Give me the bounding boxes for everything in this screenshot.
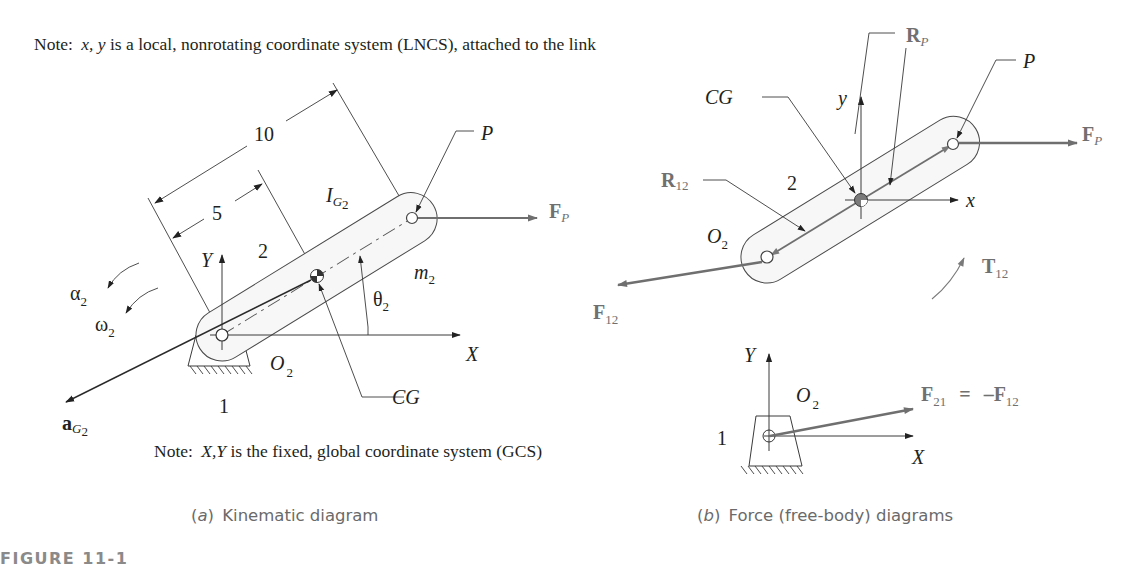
figure-11-1: Note: x, y is a local, nonrotating coord… — [0, 0, 1141, 575]
axis-x-label-a: X — [465, 343, 479, 365]
figure-number: FIGURE 11-1 — [0, 549, 128, 568]
axis-x-label-b: X — [911, 446, 925, 468]
axis-y-label-b: Y — [744, 344, 757, 366]
dimension-10-label: 10 — [254, 123, 274, 145]
leader-cg-b — [762, 97, 855, 193]
force-fp-label-b: FP — [1082, 123, 1102, 148]
mass-label: m2 — [414, 261, 435, 287]
ground-number-a: 1 — [219, 395, 229, 417]
dimension-line-10-b — [286, 90, 337, 121]
pivot-label-ground: O2 — [796, 384, 819, 412]
torque-label: T12 — [982, 255, 1008, 281]
alpha-label: α2 — [70, 282, 87, 309]
omega-arc — [126, 288, 158, 313]
link-number-b: 2 — [787, 172, 797, 194]
kinematic-diagram: 10 5 X Y — [62, 83, 569, 439]
cg-label-a: CG — [392, 386, 420, 408]
dimension-line-10-a — [155, 146, 247, 203]
local-x-label: x — [965, 189, 975, 211]
torque-arc — [932, 258, 964, 299]
dimension-line-5-b — [235, 184, 262, 201]
free-body-diagram: x y FP F12 T12 RP — [593, 24, 1102, 474]
rp-label: RP — [906, 24, 928, 49]
pivot-label-b: O2 — [707, 225, 728, 252]
alpha-arc — [108, 263, 139, 288]
point-p-label-a: P — [480, 122, 493, 144]
pivot-o2-b — [761, 251, 773, 263]
ground-number-b: 1 — [717, 427, 727, 449]
cg-symbol-a — [311, 270, 324, 283]
force-fp-label-a: FP — [549, 200, 569, 225]
force-f12 — [618, 262, 762, 285]
f21-equation: F21 = –F12 — [921, 383, 1019, 410]
r12-label: R12 — [661, 169, 688, 193]
acceleration-label: aG2 — [62, 412, 88, 439]
theta-label: θ2 — [373, 288, 389, 314]
axis-y-label-a: Y — [201, 249, 214, 271]
point-p-b — [948, 139, 959, 150]
caption-a: (a) Kinematic diagram — [191, 506, 378, 525]
point-p-a — [407, 213, 418, 224]
caption-b: (b) Force (free-body) diagrams — [697, 506, 953, 525]
cg-label-b: CG — [705, 86, 733, 108]
omega-label: ω2 — [95, 313, 115, 340]
pivot-label-a: O2 — [270, 352, 293, 380]
force-f12-label: F12 — [593, 301, 618, 327]
leader-cg-a — [319, 284, 404, 397]
local-y-label: y — [836, 87, 847, 110]
pivot-o2-a — [216, 329, 228, 341]
ground-body-b — [741, 416, 803, 474]
point-p-label-b: P — [1022, 50, 1035, 72]
link-number-a: 2 — [258, 240, 268, 262]
cg-symbol-b — [855, 194, 868, 207]
inertia-label: IG2 — [325, 184, 349, 212]
acceleration-vector-ag2 — [66, 280, 311, 402]
dimension-5-label: 5 — [212, 202, 222, 224]
bottom-note: Note: X,Y is the fixed, global coordinat… — [154, 441, 542, 461]
top-note: Note: x, y is a local, nonrotating coord… — [34, 34, 596, 54]
dimension-line-5-a — [173, 219, 204, 238]
